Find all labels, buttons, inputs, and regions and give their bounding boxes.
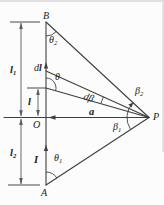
element-upper-line-to-p — [46, 71, 149, 118]
dim-l1-arrow-up — [19, 23, 23, 29]
dl-vector-arrowhead — [44, 62, 48, 69]
vector-a-arrowhead — [49, 115, 56, 119]
current-direction-arrowhead — [44, 145, 48, 152]
label-l1: l1 — [10, 64, 16, 76]
scan-artifact-right — [162, 2, 164, 152]
diagram-canvas: B A O P I a l l1 l2 dl θ θ2 θ1 β1 β2 dβ — [0, 0, 164, 205]
physics-diagram-straight-wire-field: B A O P I a l l1 l2 dl θ θ2 θ1 β1 β2 dβ — [0, 0, 164, 205]
dim-l-arrow-down — [36, 110, 40, 116]
label-l2: l2 — [10, 147, 17, 159]
label-length-l: l — [28, 96, 31, 107]
dim-l1-arrow-down — [19, 110, 23, 116]
line-a-to-p — [46, 118, 149, 186]
label-point-p: P — [152, 111, 159, 122]
dim-l2-arrow-up — [19, 119, 23, 125]
label-point-b: B — [43, 10, 49, 21]
label-theta1: θ1 — [54, 152, 62, 164]
label-theta: θ — [55, 71, 60, 82]
arc-dbeta — [101, 97, 104, 104]
label-beta1: β1 — [112, 121, 121, 133]
scan-artifact-top — [0, 0, 164, 2]
label-vector-a: a — [89, 106, 94, 117]
arc-theta1 — [46, 172, 57, 178]
dim-l-arrow-up — [36, 89, 40, 95]
label-beta2: β2 — [134, 85, 144, 97]
label-current-i: I — [33, 154, 39, 165]
label-point-a: A — [40, 187, 48, 198]
label-theta2: θ2 — [49, 34, 58, 46]
label-dl: dl — [34, 62, 42, 73]
arc-beta-with-arrow — [127, 103, 133, 129]
dim-l2-arrow-down — [19, 178, 23, 184]
label-origin-o: O — [33, 119, 40, 130]
